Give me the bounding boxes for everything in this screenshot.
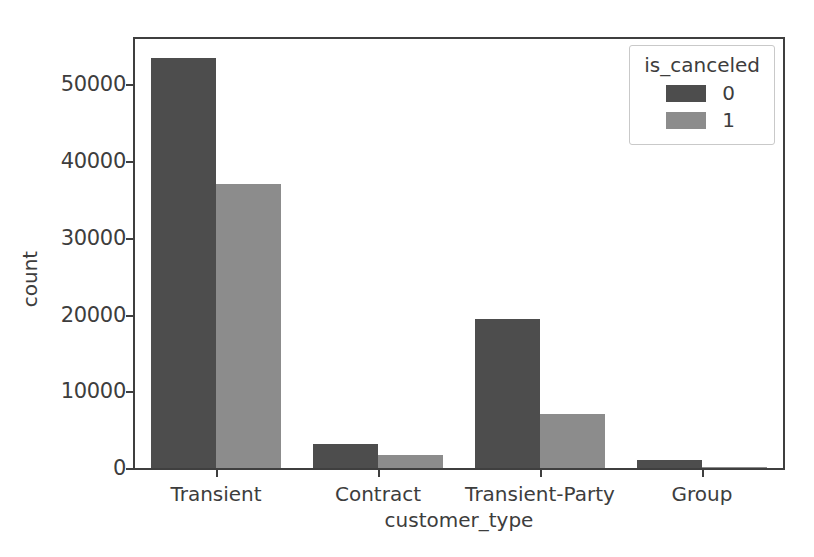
legend-entry: 0 (644, 81, 760, 105)
legend-label: 1 (722, 108, 735, 132)
bar (378, 455, 443, 468)
y-tick-label: 40000 (61, 149, 126, 173)
bar (151, 58, 216, 468)
legend-label: 0 (722, 81, 735, 105)
x-tick-label: Contract (335, 482, 421, 506)
y-tick-mark (126, 84, 135, 86)
y-tick-mark (126, 161, 135, 163)
y-tick-label: 30000 (61, 226, 126, 250)
y-tick-mark (126, 391, 135, 393)
legend-swatch (666, 85, 706, 102)
y-axis-label: count (18, 250, 42, 306)
y-tick-label: 20000 (61, 303, 126, 327)
x-tick-label: Transient (170, 482, 261, 506)
x-tick-mark (216, 468, 218, 477)
y-tick-mark (126, 238, 135, 240)
y-tick-label: 50000 (61, 72, 126, 96)
bar (637, 460, 702, 468)
x-tick-mark (540, 468, 542, 477)
bar (475, 319, 540, 468)
y-tick-label: 10000 (61, 379, 126, 403)
bar (216, 184, 281, 468)
bar (702, 467, 767, 468)
bar (313, 444, 378, 468)
y-tick-mark (126, 468, 135, 470)
legend-swatch (666, 112, 706, 129)
legend-entries: 01 (644, 81, 760, 132)
y-tick-label: 0 (113, 456, 126, 480)
x-tick-mark (702, 468, 704, 477)
x-axis-label: customer_type (133, 508, 785, 532)
y-tick-mark (126, 315, 135, 317)
legend-title: is_canceled (644, 53, 760, 77)
x-tick-label: Group (672, 482, 733, 506)
plot-axes: 01000020000300004000050000TransientContr… (133, 37, 785, 470)
legend-entry: 1 (644, 108, 760, 132)
x-tick-mark (378, 468, 380, 477)
bar (540, 414, 605, 468)
x-tick-label: Transient-Party (465, 482, 615, 506)
figure: count 01000020000300004000050000Transien… (0, 0, 814, 557)
legend: is_canceled 01 (629, 45, 775, 145)
